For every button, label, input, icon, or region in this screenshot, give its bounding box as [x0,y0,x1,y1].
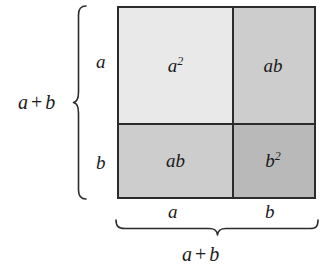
cell-ab-bottom-left-base: ab [166,150,185,171]
divider-vertical [232,8,234,197]
label-left-side-bottom: b [96,153,106,172]
label-bottom-total-operator: + [192,243,209,265]
area-square: a2 ab ab b2 [117,6,316,199]
cell-ab-top-right: ab [232,8,314,123]
label-left-total: a+b [18,92,55,112]
cell-ab-top-right-base: ab [264,56,283,77]
cell-a-squared-base: a [168,56,178,77]
label-left-total-first: a [18,91,28,113]
cell-a-squared-exponent: 2 [177,54,183,68]
label-bottom-total: a+b [182,244,219,264]
divider-horizontal [119,123,314,125]
figure-canvas: a+b a b a2 ab ab b2 a b a+b [0,0,331,268]
cell-ab-bottom-left: ab [119,123,232,197]
cell-ab-top-right-label: ab [264,55,283,75]
cell-a-squared-label: a2 [168,55,184,75]
cell-b-squared-label: b2 [265,150,281,170]
label-left-total-second: b [45,91,55,113]
label-left-side-top: a [96,52,106,71]
cell-b-squared-base: b [265,150,275,171]
horizontal-brace-bottom [114,218,320,238]
vertical-brace-left [72,4,88,201]
cell-b-squared-exponent: 2 [275,149,281,163]
label-left-total-operator: + [28,91,45,113]
label-bottom-total-second: b [209,243,219,265]
cell-a-squared: a2 [119,8,232,123]
cell-b-squared: b2 [232,123,314,197]
label-bottom-total-first: a [182,243,192,265]
cell-ab-bottom-left-label: ab [166,150,185,170]
